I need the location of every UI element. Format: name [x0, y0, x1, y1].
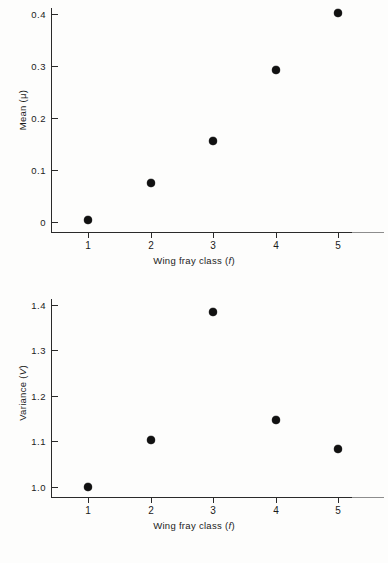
y-tick-mean-3 — [52, 66, 58, 67]
y-axis-title-mean: Mean (μ) — [17, 90, 28, 131]
x-tick-mean-4 — [338, 233, 339, 238]
data-point-variance-1 — [84, 483, 92, 491]
x-tick-mean-3 — [276, 233, 277, 238]
data-point-mean-2 — [147, 179, 155, 187]
data-point-variance-5 — [334, 445, 342, 453]
y-tick-mean-0 — [52, 222, 58, 223]
x-tick-label-mean-1: 2 — [148, 240, 154, 251]
y-tick-label-variance-2: 1.2 — [0, 391, 46, 402]
x-tick-mean-0 — [88, 233, 89, 238]
chart-mean-panel: Mean (μ) Wing fray class (f) 00.10.20.30… — [0, 0, 388, 281]
y-tick-label-variance-0: 1.0 — [0, 482, 46, 493]
x-tick-mean-1 — [151, 233, 152, 238]
y-axis-line-mean — [51, 8, 52, 232]
data-point-variance-4 — [272, 416, 280, 424]
x-tick-variance-3 — [276, 498, 277, 503]
data-point-mean-4 — [272, 66, 280, 74]
data-point-mean-5 — [334, 9, 342, 17]
y-tick-label-variance-4: 1.4 — [0, 300, 46, 311]
x-tick-label-variance-3: 4 — [273, 505, 279, 516]
x-axis-line-tail-variance — [352, 497, 384, 498]
x-tick-label-variance-0: 1 — [85, 505, 91, 516]
figure-page: Mean (μ) Wing fray class (f) 00.10.20.30… — [0, 0, 388, 563]
x-axis-line-variance — [51, 497, 352, 498]
x-tick-label-mean-0: 1 — [85, 240, 91, 251]
x-tick-label-variance-2: 3 — [210, 505, 216, 516]
x-tick-variance-4 — [338, 498, 339, 503]
y-tick-variance-0 — [52, 487, 58, 488]
chart-variance-panel: Variance (V) Wing fray class (f) 1.01.11… — [0, 281, 388, 563]
y-tick-variance-2 — [52, 396, 58, 397]
x-tick-label-variance-1: 2 — [148, 505, 154, 516]
x-tick-label-mean-4: 5 — [335, 240, 341, 251]
x-tick-variance-0 — [88, 498, 89, 503]
y-tick-label-mean-2: 0.2 — [0, 113, 46, 124]
y-tick-mean-2 — [52, 118, 58, 119]
y-tick-mean-1 — [52, 170, 58, 171]
y-tick-label-variance-1: 1.1 — [0, 436, 46, 447]
x-axis-line-mean — [51, 232, 352, 233]
y-tick-label-mean-0: 0 — [0, 217, 46, 228]
x-tick-label-variance-4: 5 — [335, 505, 341, 516]
data-point-mean-1 — [84, 216, 92, 224]
y-tick-label-mean-3: 0.3 — [0, 61, 46, 72]
y-tick-label-variance-3: 1.3 — [0, 345, 46, 356]
y-tick-mean-4 — [52, 14, 58, 15]
data-point-variance-2 — [147, 436, 155, 444]
data-point-variance-3 — [209, 308, 217, 316]
data-point-mean-3 — [209, 137, 217, 145]
x-tick-label-mean-2: 3 — [210, 240, 216, 251]
x-axis-title-mean: Wing fray class (f) — [0, 255, 388, 266]
chart-mean-plot-area: Mean (μ) Wing fray class (f) 00.10.20.30… — [0, 0, 388, 281]
x-tick-mean-2 — [213, 233, 214, 238]
x-tick-variance-1 — [151, 498, 152, 503]
y-tick-variance-3 — [52, 350, 58, 351]
y-tick-label-mean-1: 0.1 — [0, 165, 46, 176]
chart-variance-plot-area: Variance (V) Wing fray class (f) 1.01.11… — [0, 281, 388, 563]
y-axis-line-variance — [51, 299, 52, 497]
y-tick-variance-1 — [52, 441, 58, 442]
x-tick-label-mean-3: 4 — [273, 240, 279, 251]
x-tick-variance-2 — [213, 498, 214, 503]
x-axis-title-variance: Wing fray class (f) — [0, 520, 388, 531]
y-tick-variance-4 — [52, 305, 58, 306]
x-axis-line-tail-mean — [352, 232, 384, 233]
y-tick-label-mean-4: 0.4 — [0, 9, 46, 20]
